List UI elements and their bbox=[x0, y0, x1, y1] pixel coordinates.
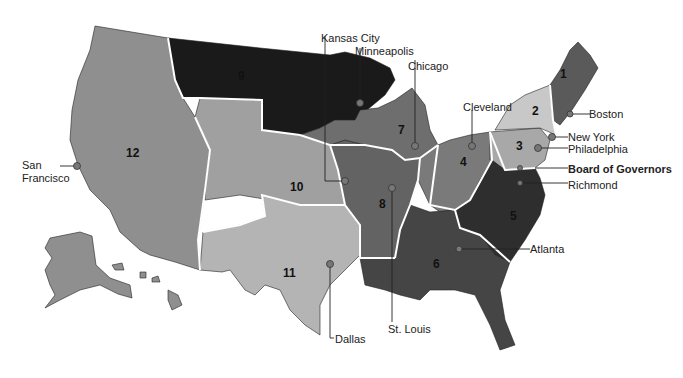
label-dallas: Dallas bbox=[335, 333, 366, 346]
district-number-7: 7 bbox=[398, 123, 405, 137]
label-cleveland: Cleveland bbox=[463, 101, 512, 114]
district-number-5: 5 bbox=[510, 209, 517, 223]
boston-pin[interactable] bbox=[567, 111, 573, 117]
district-11[interactable] bbox=[200, 195, 360, 335]
minneapolis-pin[interactable] bbox=[357, 100, 364, 107]
district-number-10: 10 bbox=[290, 180, 304, 194]
philadelphia-pin[interactable] bbox=[535, 145, 542, 152]
district-number-12: 12 bbox=[126, 146, 140, 160]
board-of-governors-pin[interactable] bbox=[518, 166, 523, 171]
label-boston: Boston bbox=[589, 108, 623, 121]
label-san-francisco-line2: Francisco bbox=[22, 172, 70, 185]
district-number-4: 4 bbox=[460, 155, 467, 169]
label-philadelphia: Philadelphia bbox=[568, 143, 628, 156]
district-number-6: 6 bbox=[433, 257, 440, 271]
dallas-pin[interactable] bbox=[327, 261, 334, 268]
cleveland-pin[interactable] bbox=[469, 143, 476, 150]
st-louis-pin[interactable] bbox=[389, 185, 396, 192]
chicago-pin[interactable] bbox=[412, 143, 419, 150]
kansas-city-pin[interactable] bbox=[342, 178, 349, 185]
district-number-8: 8 bbox=[379, 197, 386, 211]
district-number-9: 9 bbox=[238, 69, 245, 83]
district-number-2: 2 bbox=[532, 104, 539, 118]
label-atlanta: Atlanta bbox=[530, 243, 564, 256]
richmond-pin[interactable] bbox=[518, 181, 523, 186]
label-kansas-city: Kansas City bbox=[321, 32, 380, 45]
label-st-louis: St. Louis bbox=[388, 323, 431, 336]
atlanta-pin[interactable] bbox=[456, 246, 462, 252]
label-richmond: Richmond bbox=[568, 179, 618, 192]
district-number-1: 1 bbox=[560, 67, 567, 81]
label-board-of-governors: Board of Governors bbox=[568, 163, 672, 176]
district-number-11: 11 bbox=[283, 266, 296, 280]
label-chicago: Chicago bbox=[408, 60, 448, 73]
new-york-pin[interactable] bbox=[549, 134, 556, 141]
san-francisco-pin[interactable] bbox=[74, 163, 81, 170]
label-san-francisco-line1: San bbox=[22, 159, 42, 172]
label-minneapolis: Minneapolis bbox=[355, 45, 414, 58]
district-number-3: 3 bbox=[516, 139, 523, 153]
